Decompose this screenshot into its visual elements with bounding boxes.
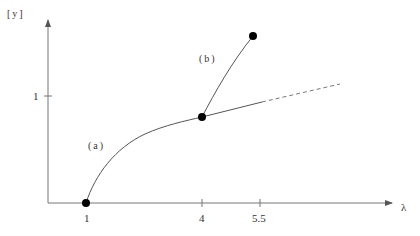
x-axis-label: λ: [401, 201, 407, 213]
x-tick-label-4: 4: [199, 212, 205, 224]
branch-a-curve: [86, 102, 262, 203]
branch-a-dashed: [262, 84, 340, 102]
branch-b-curve: [202, 36, 253, 117]
point-branch-b-end: [249, 32, 257, 40]
point-lambda-1: [82, 199, 90, 207]
bifurcation-diagram: [y] λ 1 1 4 5.5 (a) (b): [0, 0, 420, 236]
y-axis-label: [y]: [7, 8, 25, 19]
branch-b-label: (b): [199, 53, 217, 65]
branch-a-label: (a): [88, 140, 105, 152]
y-tick-label-1: 1: [33, 90, 39, 102]
x-tick-label-5.5: 5.5: [252, 212, 266, 224]
x-tick-label-1: 1: [84, 212, 90, 224]
point-lambda-4: [198, 113, 206, 121]
